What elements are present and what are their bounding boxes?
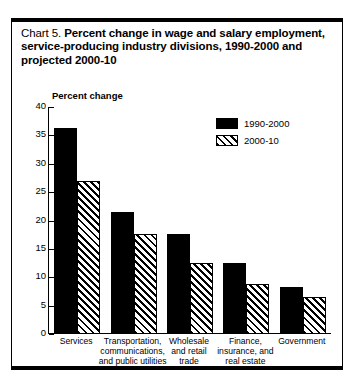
y-axis-tick-label: 5 bbox=[41, 299, 46, 310]
bar-group bbox=[223, 107, 269, 334]
chart-title-prefix: Chart 5. bbox=[21, 27, 61, 39]
bar-series-1[interactable] bbox=[111, 212, 134, 334]
bar-series-2[interactable] bbox=[303, 297, 326, 334]
y-axis-tick-label: 25 bbox=[35, 185, 46, 196]
bar-series-1[interactable] bbox=[223, 263, 246, 334]
category-label-line: real estate bbox=[211, 357, 279, 367]
chart-title: Chart 5. Percent change in wage and sala… bbox=[21, 27, 333, 67]
y-axis-tick: 0 bbox=[18, 334, 54, 335]
y-axis-label: Percent change bbox=[52, 90, 123, 101]
y-axis-tick-label: 35 bbox=[35, 128, 46, 139]
y-axis-tick-label: 20 bbox=[35, 214, 46, 225]
chart-title-main: Percent change in wage and salary employ… bbox=[21, 27, 325, 66]
plot-area: 0510152025303540 bbox=[48, 107, 331, 334]
bar-series-2[interactable] bbox=[246, 284, 269, 334]
x-axis-category-labels: ServicesTransportation,communications,an… bbox=[48, 337, 333, 380]
y-axis-tick-label: 30 bbox=[35, 157, 46, 168]
bar-group bbox=[280, 107, 326, 334]
bar-series-2[interactable] bbox=[134, 234, 157, 334]
category-label-line: Government bbox=[268, 337, 336, 347]
chart-figure-frame: Chart 5. Percent change in wage and sala… bbox=[11, 18, 343, 370]
bar-series-1[interactable] bbox=[54, 128, 77, 334]
y-axis-tick-label: 15 bbox=[35, 242, 46, 253]
x-axis-category-label: Government bbox=[268, 337, 336, 347]
bar-series-1[interactable] bbox=[280, 287, 303, 334]
bar-group bbox=[167, 107, 213, 334]
y-axis-tick-label: 40 bbox=[35, 100, 46, 111]
bars-layer bbox=[49, 107, 331, 334]
y-axis-tick-label: 10 bbox=[35, 270, 46, 281]
y-axis-tick-mark bbox=[49, 334, 54, 335]
bar-series-2[interactable] bbox=[77, 181, 100, 334]
bar-series-1[interactable] bbox=[167, 234, 190, 334]
bar-group bbox=[54, 107, 100, 334]
bar-group bbox=[111, 107, 157, 334]
bar-series-2[interactable] bbox=[190, 263, 213, 335]
